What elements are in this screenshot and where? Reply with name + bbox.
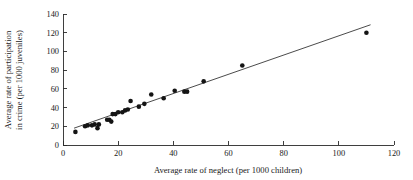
x-tick-label: 80 [279,149,287,158]
y-tick-label: 120 [46,29,59,38]
y-tick-label: 140 [46,10,59,19]
scatter-plot-figure: 020406080100120140 020406080100120 Avera… [0,0,413,180]
data-point [172,88,177,93]
data-point [109,119,114,124]
y-tick-label: 100 [46,47,59,56]
x-tick-label: 40 [169,149,177,158]
y-tick-label: 20 [51,122,59,131]
data-point [161,96,166,101]
x-tick-label: 60 [224,149,232,158]
y-tick-label: 40 [51,104,59,113]
y-axis-ticks: 020406080100120140 [46,10,67,150]
data-point [364,30,369,35]
x-tick-label: 100 [333,149,346,158]
x-axis-ticks: 020406080100120 [61,141,400,158]
data-point [185,89,190,94]
x-tick-label: 20 [114,149,122,158]
data-point [137,104,142,109]
y-tick-label: 80 [51,66,59,75]
data-point [97,122,102,127]
y-axis-title-line1: Average rate of participation [3,30,13,129]
data-point [116,110,121,115]
data-point [126,107,131,112]
chart-canvas: 020406080100120140 020406080100120 Avera… [0,0,413,180]
data-point [92,122,97,127]
data-point [149,92,154,97]
x-tick-label: 0 [61,149,65,158]
y-axis-title-line2: in crime (per 1000 juveniles) [14,30,24,130]
data-point [128,99,133,104]
data-point [142,102,147,107]
data-point [86,123,91,128]
data-points [73,30,369,134]
data-point [240,63,245,68]
x-tick-label: 120 [388,149,401,158]
x-axis-title: Average rate of neglect (per 1000 childr… [154,165,302,175]
y-tick-label: 0 [55,141,59,150]
y-tick-label: 60 [51,85,59,94]
data-point [201,79,206,84]
data-point [73,130,78,135]
